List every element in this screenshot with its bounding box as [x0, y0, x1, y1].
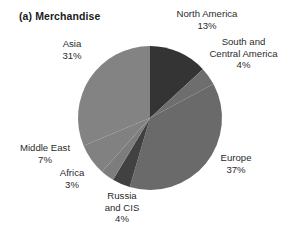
pie-label-south-and-central-america: South and Central America 4%: [196, 36, 291, 71]
pie-label-africa-text: Africa: [48, 167, 96, 179]
pie-label-middle-east-value: 7%: [5, 154, 85, 166]
pie-label-middle-east-text: Middle East: [5, 142, 85, 154]
pie-label-asia-value: 31%: [48, 50, 96, 62]
pie-chart-figure: (a) Merchandise North America 13% South …: [0, 0, 291, 239]
pie-label-russia-and-cis-text-line1: Russia: [93, 190, 151, 202]
pie-label-south-and-central-america-text-line1: South and: [196, 36, 291, 48]
pie-label-russia-and-cis-value: 4%: [93, 213, 151, 225]
pie-label-europe: Europe 37%: [205, 152, 267, 175]
pie-label-south-and-central-america-value: 4%: [196, 59, 291, 71]
pie-label-asia-text: Asia: [48, 38, 96, 50]
pie-label-north-america-text: North America: [155, 8, 259, 20]
pie-label-europe-value: 37%: [205, 164, 267, 176]
pie-label-asia: Asia 31%: [48, 38, 96, 61]
pie-label-europe-text: Europe: [205, 152, 267, 164]
pie-label-south-and-central-america-text-line2: Central America: [196, 48, 291, 60]
pie-label-africa: Africa 3%: [48, 167, 96, 190]
pie-label-russia-and-cis: Russia and CIS 4%: [93, 190, 151, 225]
pie-label-north-america-value: 13%: [155, 20, 259, 32]
pie-label-north-america: North America 13%: [155, 8, 259, 31]
pie-label-africa-value: 3%: [48, 179, 96, 191]
pie-label-russia-and-cis-text-line2: and CIS: [93, 202, 151, 214]
pie-label-middle-east: Middle East 7%: [5, 142, 85, 165]
